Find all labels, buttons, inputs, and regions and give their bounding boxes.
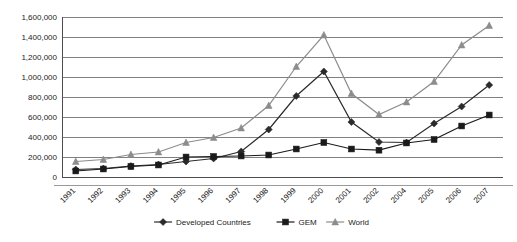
data-point-marker (348, 90, 355, 96)
x-tick-label: 1992 (86, 186, 105, 205)
data-point-marker (349, 146, 355, 152)
data-point-marker (238, 153, 244, 159)
y-tick-label: 400,000 (28, 133, 57, 142)
data-point-marker (431, 120, 438, 127)
series-line (76, 115, 489, 171)
data-point-marker (100, 166, 106, 172)
y-tick-label: 200,000 (28, 153, 57, 162)
legend-marker-icon (283, 219, 289, 225)
data-point-marker (211, 154, 217, 160)
data-point-marker (128, 164, 134, 170)
x-tick-label: 1993 (113, 186, 132, 205)
x-tick-label: 2005 (417, 186, 436, 205)
x-tick-label: 1999 (279, 186, 298, 205)
series-line (76, 26, 489, 162)
x-tick-label: 1997 (224, 186, 243, 205)
data-point-marker (376, 147, 382, 153)
y-tick-label: 800,000 (28, 93, 57, 102)
x-tick-label: 2004 (389, 186, 408, 205)
series-gem (73, 112, 492, 174)
legend-label: Developed Countries (176, 218, 251, 227)
data-point-marker (431, 137, 437, 143)
x-tick-label: 2001 (334, 186, 353, 205)
y-axis-tick-labels: 1,600,0001,400,0001,200,0001,000,000800,… (21, 13, 57, 182)
line-chart: 1,600,0001,400,0001,200,0001,000,000800,… (0, 0, 517, 242)
x-tick-label: 2006 (444, 186, 463, 205)
legend-marker-icon (160, 219, 167, 226)
y-tick-label: 0 (53, 173, 58, 182)
x-tick-label: 1996 (196, 186, 215, 205)
legend-item-gem[interactable]: GEM (277, 218, 318, 227)
data-point-marker (293, 146, 299, 152)
data-point-marker (458, 42, 465, 48)
x-tick-label: 2002 (361, 186, 380, 205)
chart-legend: Developed CountriesGEMWorld (154, 218, 369, 227)
x-tick-label: 1998 (251, 186, 270, 205)
data-point-marker (321, 32, 328, 38)
chart-canvas: 1,600,0001,400,0001,200,0001,000,000800,… (0, 0, 517, 242)
legend-item-developed-countries[interactable]: Developed Countries (154, 218, 251, 227)
y-tick-label: 1,600,000 (21, 13, 57, 22)
gridlines (54, 17, 513, 186)
y-tick-label: 600,000 (28, 113, 57, 122)
data-point-marker (321, 140, 327, 146)
x-tick-label: 1994 (141, 186, 160, 205)
x-tick-label: 2007 (472, 186, 491, 205)
legend-label: World (348, 218, 369, 227)
data-point-marker (404, 140, 410, 146)
data-point-marker (183, 154, 189, 160)
legend-label: GEM (299, 218, 318, 227)
data-point-marker (266, 152, 272, 158)
y-tick-label: 1,000,000 (21, 73, 57, 82)
y-tick-label: 1,200,000 (21, 53, 57, 62)
x-axis-tick-labels: 1991199219931994199519961997199819992000… (58, 186, 491, 205)
x-tick-label: 2000 (306, 186, 325, 205)
series-world (72, 22, 492, 164)
legend-item-world[interactable]: World (326, 218, 369, 227)
data-point-marker (376, 111, 383, 117)
x-tick-label: 1991 (58, 186, 77, 205)
data-point-marker (486, 112, 492, 118)
data-point-marker (403, 99, 410, 105)
data-point-marker (156, 162, 162, 168)
data-point-marker (486, 22, 493, 28)
data-point-marker (459, 123, 465, 129)
data-point-marker (73, 168, 79, 174)
y-tick-label: 1,400,000 (21, 33, 57, 42)
x-tick-label: 1995 (168, 186, 187, 205)
